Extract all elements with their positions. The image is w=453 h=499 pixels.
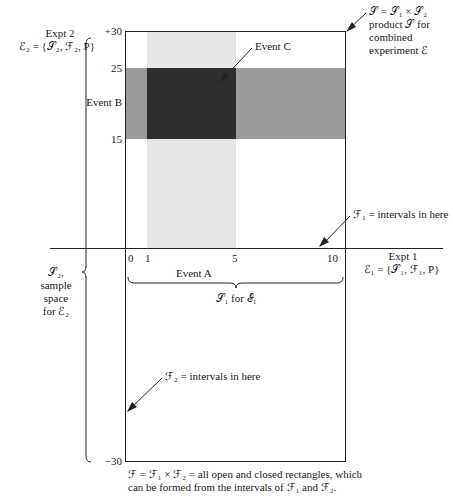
s1-brace: [128, 277, 343, 288]
expt2-definition: ℰ₂ = {𝒮₂, ℱ₂, P}: [2, 40, 112, 53]
s2-label-3: space: [28, 292, 84, 305]
event-c-label: Event C: [255, 40, 291, 53]
x-tick-10: 10: [327, 252, 338, 265]
product-space-desc-2: combined: [369, 31, 412, 44]
s2-label-2: sample: [28, 279, 84, 292]
y-tick-bottom: −30: [90, 455, 122, 468]
caption-line-1: ℱ = ℱ₁ × ℱ₂ = all open and closed rectan…: [128, 468, 362, 481]
product-space-formula: 𝒮 = 𝒮₁ × 𝒮₂: [369, 5, 427, 18]
expt1-title: Expt 1: [358, 250, 448, 263]
f1-note: ℱ₁ = intervals in here: [353, 208, 448, 221]
s1-brace-label: 𝒮₁ for ℰ₁: [196, 292, 276, 305]
caption-line-2: can be formed from the intervals of ℱ₁ a…: [128, 481, 336, 494]
product-space-desc-1: product 𝒮 for: [369, 18, 430, 31]
expt2-title: Expt 2: [20, 27, 100, 40]
f2-note: ℱ₂ = intervals in here: [165, 370, 260, 383]
y-tick-15: 15: [90, 133, 122, 146]
product-space-desc-3: experiment ℰ: [369, 44, 428, 57]
y-tick-top: +30: [90, 25, 122, 38]
f1-arrowhead-icon: [319, 237, 329, 247]
s2-label-1: 𝒮₂,: [28, 266, 84, 279]
event-a-band: [147, 31, 236, 248]
event-a-label: Event A: [176, 267, 212, 280]
x-tick-0: 0: [128, 252, 134, 265]
x-tick-1: 1: [145, 252, 151, 265]
f2-arrow: [131, 378, 162, 408]
x-tick-5: 5: [232, 252, 238, 265]
s2-label-4: for ℰ₂: [28, 305, 84, 318]
event-b-label: Event B: [70, 96, 122, 109]
y-tick-25: 25: [90, 62, 122, 75]
expt1-definition: ℰ₁ = {𝒮₁, ℱ₁, P}: [350, 263, 453, 276]
